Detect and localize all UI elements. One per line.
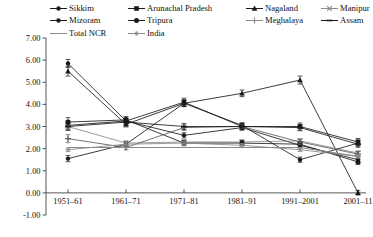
x-tick-label: 1951–61 (53, 197, 82, 206)
data-point-marker (355, 154, 360, 159)
y-tick-label: 3.00 (26, 123, 41, 132)
x-tick-label: 1981–91 (227, 197, 256, 206)
y-tick-label: 1.00 (26, 167, 41, 176)
chart-figure: Sikkim Arunachal Pradesh Nagaland Manipu… (0, 0, 373, 237)
x-tick-label: 2001–11 (343, 197, 372, 206)
x-tick-label: 1971–81 (169, 197, 198, 206)
chart-x-tick-labels: 1951–611961–711971–811981–911991–2001200… (53, 197, 372, 206)
chart-series-layer (65, 59, 361, 195)
y-tick-label: -1.00 (23, 211, 40, 220)
data-point-marker (66, 61, 70, 65)
y-tick-label: 4.00 (26, 100, 41, 109)
data-point-marker (65, 147, 70, 152)
data-point-marker (297, 147, 302, 152)
data-point-marker (298, 157, 302, 161)
y-tick-label: 2.00 (26, 145, 41, 154)
chart-series (66, 117, 361, 165)
data-point-marker (65, 68, 71, 73)
data-point-marker (66, 156, 70, 160)
x-tick-label: 1961–71 (111, 197, 140, 206)
data-point-marker (239, 143, 244, 148)
data-point-marker (297, 77, 303, 82)
y-tick-label: 7.00 (26, 34, 41, 43)
data-point-marker (181, 140, 186, 145)
chart-series (66, 123, 361, 155)
data-point-marker (182, 101, 186, 105)
data-point-marker (356, 159, 361, 164)
chart-series (65, 124, 361, 158)
y-tick-label: 6.00 (26, 56, 41, 65)
y-tick-label: 0.00 (26, 189, 41, 198)
data-point-marker (182, 133, 186, 137)
x-tick-label: 1991–2001 (281, 197, 319, 206)
chart-y-tick-labels: 7.006.005.004.003.002.001.000.00-1.00 (23, 34, 40, 220)
data-point-marker (65, 136, 71, 142)
y-tick-label: 5.00 (26, 78, 41, 87)
chart-plot-area: 1951–611961–711971–811981–911991–2001200… (0, 0, 373, 237)
data-point-marker (123, 142, 128, 147)
